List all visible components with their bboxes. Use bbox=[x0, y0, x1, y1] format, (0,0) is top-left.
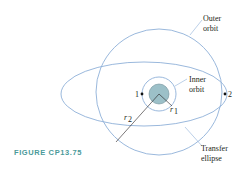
point-2-label: 2 bbox=[228, 90, 232, 99]
transfer-ellipse bbox=[61, 62, 227, 126]
orbit-diagram: Outer orbit Inner orbit Transfer ellipse… bbox=[0, 0, 246, 175]
inner-orbit-label-2: orbit bbox=[189, 85, 205, 94]
inner-orbit-label: Inner bbox=[189, 75, 206, 84]
r1-subscript: 1 bbox=[174, 107, 178, 116]
point-1-label: 1 bbox=[135, 90, 139, 99]
r2-subscript: 2 bbox=[128, 115, 132, 124]
point-1-dot bbox=[141, 93, 144, 96]
outer-orbit-leader bbox=[190, 20, 202, 35]
figure-caption: FIGURE CP13.75 bbox=[14, 148, 82, 157]
transfer-ellipse-label: Transfer bbox=[201, 144, 228, 153]
transfer-ellipse-label-2: ellipse bbox=[201, 154, 222, 163]
transfer-leader bbox=[185, 127, 202, 146]
inner-orbit-leader bbox=[175, 79, 187, 86]
outer-orbit-label-2: orbit bbox=[203, 24, 219, 33]
r2-line bbox=[116, 94, 159, 142]
point-2-dot bbox=[224, 93, 227, 96]
outer-orbit-label: Outer bbox=[203, 14, 222, 23]
